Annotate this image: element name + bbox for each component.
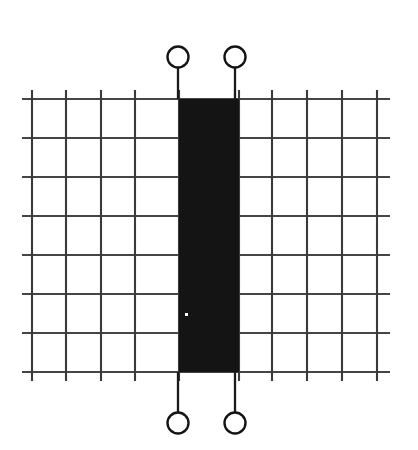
print-artifact-speck xyxy=(185,313,188,316)
terminal-top-left-icon xyxy=(168,47,189,68)
shunt-body-rect xyxy=(179,99,239,372)
schematic-drawing xyxy=(0,0,418,450)
figure-canvas xyxy=(0,0,418,450)
terminal-bottom-right-icon xyxy=(225,413,246,434)
terminal-top-right-icon xyxy=(225,47,246,68)
terminal-bottom-left-icon xyxy=(168,413,189,434)
